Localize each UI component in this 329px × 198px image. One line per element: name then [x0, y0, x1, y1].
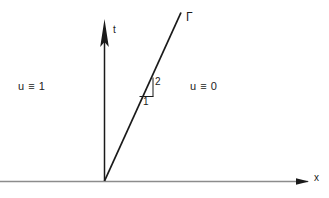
t-axis-label: t: [113, 25, 116, 35]
slope-rise-label: 2: [155, 77, 161, 87]
slope-run-label: 1: [143, 97, 149, 107]
x-axis-arrowhead: [296, 178, 309, 185]
region-label-left: u ≡ 1: [18, 81, 45, 92]
region-label-right: u ≡ 0: [190, 81, 217, 92]
gamma-curve-label: Γ: [186, 11, 193, 23]
x-axis-label: x: [314, 173, 319, 183]
diagram-canvas: [0, 0, 329, 198]
figure-container: u ≡ 1 u ≡ 0 t x Γ 2 1: [0, 0, 329, 198]
